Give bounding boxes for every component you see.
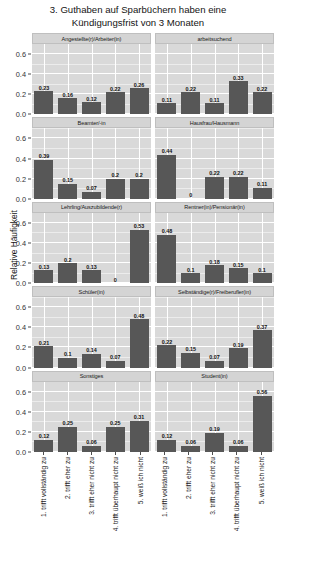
bar[interactable] [106,427,125,452]
bar-slot[interactable]: 0.12 [157,382,176,452]
bar[interactable] [157,440,176,452]
bar-slot[interactable]: 0.18 [205,213,224,283]
bar-slot[interactable]: 0.2 [130,128,149,198]
bar[interactable] [82,192,101,199]
bar-slot[interactable]: 0.22 [205,128,224,198]
bar-slot[interactable]: 0.15 [181,297,200,367]
bar[interactable] [130,230,149,283]
bar-slot[interactable]: 0.2 [58,213,77,283]
bar[interactable] [106,179,125,199]
bar-slot[interactable]: 0.39 [34,128,53,198]
bar-slot[interactable]: 0.07 [106,297,125,367]
bar[interactable] [130,421,149,452]
bar-slot[interactable]: 0.22 [157,297,176,367]
bar[interactable] [58,98,77,114]
bar[interactable] [229,268,248,283]
bar-slot[interactable]: 0.06 [82,382,101,452]
bar-slot[interactable]: 0.33 [229,44,248,114]
bar[interactable] [106,92,125,114]
bar[interactable] [130,179,149,199]
bar-slot[interactable]: 0.15 [229,213,248,283]
bar-slot[interactable]: 0.12 [82,44,101,114]
bar-slot[interactable]: 0.06 [181,382,200,452]
bar[interactable] [181,273,200,283]
bar-slot[interactable]: 0.22 [106,44,125,114]
bar[interactable] [130,319,149,367]
bar-slot[interactable]: 0.12 [34,382,53,452]
bar-slot[interactable]: 0 [181,128,200,198]
bar-slot[interactable]: 0.1 [253,213,272,283]
bar[interactable] [130,88,149,114]
bar-slot[interactable]: 0.48 [157,213,176,283]
bar[interactable] [229,348,248,367]
bar[interactable] [82,354,101,368]
bar[interactable] [82,102,101,114]
bar-slot[interactable]: 0.11 [157,44,176,114]
bar-slot[interactable]: 0.14 [82,297,101,367]
bar[interactable] [181,92,200,114]
bar-slot[interactable]: 0.48 [130,297,149,367]
bar[interactable] [58,263,77,283]
bar[interactable] [58,184,77,199]
bar-slot[interactable]: 0.23 [34,44,53,114]
y-axis-tick-mark [28,74,31,75]
bar-slot[interactable]: 0.22 [253,44,272,114]
facet-label-text: arbeitsuchend [198,36,232,42]
bar-value-label: 0.13 [76,264,106,270]
bar[interactable] [157,345,176,367]
bar-slot[interactable]: 0.25 [58,382,77,452]
bar[interactable] [205,361,224,368]
bar-slot[interactable]: 0.19 [205,382,224,452]
bar-slot[interactable]: 0.15 [58,128,77,198]
bar[interactable] [181,353,200,368]
bar[interactable] [157,155,176,199]
bar-slot[interactable]: 0.22 [181,44,200,114]
bar-slot[interactable]: 0.16 [58,44,77,114]
bar-slot[interactable]: 0.31 [130,382,149,452]
facet-strip-label: Rentner(in)/Pensionär(in) [155,202,274,213]
bar[interactable] [82,270,101,283]
bar[interactable] [229,177,248,199]
bar-slot[interactable]: 0.1 [58,297,77,367]
bar-slot[interactable]: 0.13 [34,213,53,283]
bar-slot[interactable]: 0 [106,213,125,283]
bar[interactable] [34,270,53,283]
bar[interactable] [253,92,272,114]
bar-slot[interactable]: 0.06 [229,382,248,452]
bar-slot[interactable]: 0.13 [82,213,101,283]
bar[interactable] [58,358,77,368]
bar[interactable] [34,440,53,452]
bar-slot[interactable]: 0.44 [157,128,176,198]
bar-slot[interactable]: 0.2 [106,128,125,198]
bar[interactable] [205,177,224,199]
bar-slot[interactable]: 0.07 [205,297,224,367]
bar[interactable] [205,265,224,283]
bar-value-label: 0.31 [124,414,151,420]
bar[interactable] [253,396,272,452]
bar[interactable] [205,433,224,452]
bar[interactable] [253,330,272,367]
bar-slot[interactable]: 0.11 [205,44,224,114]
bar-slot[interactable]: 0.56 [253,382,272,452]
bar[interactable] [157,103,176,114]
bar[interactable] [157,235,176,283]
bar[interactable] [34,346,53,367]
bar[interactable] [253,273,272,283]
bar-slot[interactable]: 0.1 [181,213,200,283]
bar-slot[interactable]: 0.53 [130,213,149,283]
bar[interactable] [34,160,53,199]
bar-slot[interactable]: 0.19 [229,297,248,367]
bar-slot[interactable]: 0.21 [34,297,53,367]
bar-slot[interactable]: 0.11 [253,128,272,198]
bar-slot[interactable]: 0.37 [253,297,272,367]
bar[interactable] [253,188,272,199]
bar[interactable] [34,91,53,114]
bar[interactable] [205,103,224,114]
bar-slot[interactable]: 0.26 [130,44,149,114]
bar[interactable] [106,361,125,368]
bar-slot[interactable]: 0.07 [82,128,101,198]
bar[interactable] [58,427,77,452]
bar-slot[interactable]: 0.25 [106,382,125,452]
bar[interactable] [229,81,248,114]
bar-slot[interactable]: 0.22 [229,128,248,198]
